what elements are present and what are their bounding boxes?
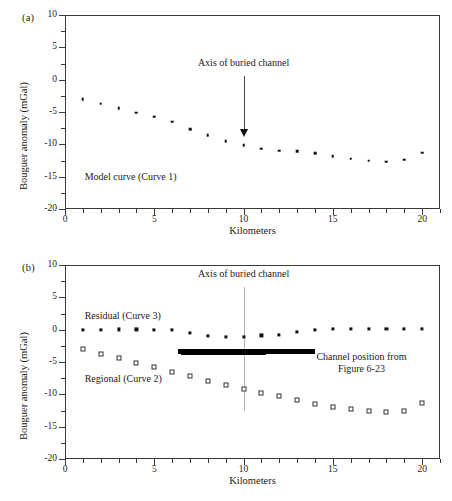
x-tick-label: 5 <box>152 215 157 225</box>
data-point-marker <box>314 152 317 155</box>
data-point-marker <box>332 155 335 158</box>
y-tick-label: -15 <box>44 172 57 182</box>
x-tick-label: 0 <box>63 465 68 475</box>
data-point-marker <box>403 159 406 162</box>
y-tick-label: 0 <box>52 325 57 335</box>
data-point <box>421 151 424 154</box>
data-point <box>296 150 299 153</box>
data-point <box>171 328 174 331</box>
data-point <box>153 115 156 118</box>
data-point-marker <box>188 374 193 379</box>
data-point <box>278 333 281 336</box>
data-point-marker <box>348 407 353 412</box>
data-point <box>135 328 138 331</box>
x-tick-label: 10 <box>239 215 249 225</box>
data-point-marker <box>330 404 335 409</box>
y-tick-major <box>59 80 65 81</box>
x-tick-minor <box>440 459 441 463</box>
x-tick-minor <box>440 209 441 213</box>
data-point-marker <box>260 148 263 151</box>
data-point-marker <box>99 328 102 331</box>
data-point <box>348 407 353 412</box>
data-point-marker <box>135 328 138 331</box>
data-point-marker <box>277 394 282 399</box>
data-point <box>242 144 245 147</box>
data-point <box>366 409 371 414</box>
y-tick-major <box>59 330 65 331</box>
y-tick-major <box>59 297 65 298</box>
y-tick-minor <box>61 411 65 412</box>
y-tick-major <box>59 265 65 266</box>
data-point-marker <box>296 150 299 153</box>
y-tick-label: -10 <box>44 390 57 400</box>
data-point <box>385 327 388 330</box>
data-point <box>314 152 317 155</box>
x-tick-minor <box>315 209 316 213</box>
x-tick-minor <box>297 209 298 213</box>
y-tick-minor <box>61 378 65 379</box>
data-point <box>153 328 156 331</box>
data-point <box>135 111 138 114</box>
y-tick-major <box>59 394 65 395</box>
y-tick-minor <box>61 31 65 32</box>
channel-position-label-line1: Channel position from <box>316 351 406 363</box>
data-point-marker <box>171 120 174 123</box>
x-tick-minor <box>279 209 280 213</box>
data-point <box>224 335 227 338</box>
data-point-marker <box>260 334 263 337</box>
x-tick-minor <box>351 209 352 213</box>
data-point <box>171 120 174 123</box>
data-point <box>367 159 370 162</box>
x-tick-minor <box>101 209 102 213</box>
data-point <box>313 402 318 407</box>
channel-position-label-line2: Figure 6-23 <box>316 363 406 375</box>
data-point-marker <box>421 327 424 330</box>
data-point <box>98 351 103 356</box>
panel-b-x-axis-title: Kilometers <box>65 475 440 486</box>
data-point-marker <box>224 335 227 338</box>
panel-a: (a) Bouguer anomaly (mGal) 1050-5-10-15-… <box>0 0 452 250</box>
data-point <box>331 327 334 330</box>
y-tick-major <box>59 15 65 16</box>
y-tick-label: 0 <box>52 75 57 85</box>
data-point-marker <box>384 410 389 415</box>
data-point <box>349 157 352 160</box>
panel-b-tag: (b) <box>22 262 35 273</box>
x-tick-label: 0 <box>63 215 68 225</box>
regional-curve-label: Regional (Curve 2) <box>85 373 162 384</box>
data-point <box>367 327 370 330</box>
y-tick-label: 5 <box>52 293 57 303</box>
y-tick-minor <box>61 314 65 315</box>
data-point <box>330 404 335 409</box>
data-point <box>313 328 316 331</box>
data-point-marker <box>421 151 424 154</box>
y-tick-label: 10 <box>48 260 58 270</box>
x-tick-minor <box>83 459 84 463</box>
y-tick-major <box>59 112 65 113</box>
data-point <box>420 400 425 405</box>
data-point <box>260 334 263 337</box>
data-point-marker <box>99 102 102 105</box>
data-point <box>152 364 157 369</box>
model-curve-label: Model curve (Curve 1) <box>85 171 177 182</box>
data-point-marker <box>402 408 407 413</box>
data-point-marker <box>117 328 120 331</box>
y-tick-minor <box>61 64 65 65</box>
y-tick-label: -10 <box>44 140 57 150</box>
data-point-marker <box>98 351 103 356</box>
data-point <box>170 369 175 374</box>
data-point-marker <box>188 331 191 334</box>
data-point-marker <box>349 157 352 160</box>
data-point <box>295 398 300 403</box>
data-point <box>277 394 282 399</box>
data-point <box>384 410 389 415</box>
data-point <box>278 150 281 153</box>
x-tick-label: 15 <box>328 215 338 225</box>
x-tick-minor <box>261 459 262 463</box>
data-point-marker <box>81 328 84 331</box>
panel-a-plot-area: 1050-5-10-15-2005101520Axis of buried ch… <box>65 15 440 209</box>
y-tick-label: -15 <box>44 422 57 432</box>
arrow-head-icon <box>240 129 248 137</box>
data-point-marker <box>296 330 299 333</box>
data-point <box>403 159 406 162</box>
